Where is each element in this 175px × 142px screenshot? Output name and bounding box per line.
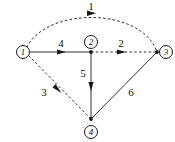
edge-label-5: 5 bbox=[77, 67, 89, 79]
node-label-1[interactable]: 1 bbox=[16, 45, 30, 59]
edge-label-2: 2 bbox=[115, 37, 127, 49]
edge-5-arrowhead bbox=[88, 82, 93, 91]
node-label-3[interactable]: 3 bbox=[159, 45, 173, 59]
node-4-dot[interactable] bbox=[89, 117, 93, 121]
edge-label-1: 1 bbox=[85, 0, 97, 12]
edge-label-3: 3 bbox=[38, 86, 50, 98]
edge-2-line bbox=[91, 49, 157, 54]
node-label-2[interactable]: 2 bbox=[84, 35, 98, 49]
edge-label-4: 4 bbox=[55, 37, 67, 49]
edge-6-line bbox=[91, 52, 157, 119]
edge-6-path bbox=[91, 52, 157, 119]
node-label-4[interactable]: 4 bbox=[84, 125, 98, 139]
edge-3-line bbox=[25, 52, 91, 119]
edge-4-arrowhead bbox=[57, 49, 66, 54]
graph-diagram: 1 2 3 4 1 4 2 5 3 6 bbox=[0, 0, 175, 142]
edge-label-6: 6 bbox=[125, 86, 137, 98]
node-2-dot[interactable] bbox=[89, 50, 93, 54]
edge-3-path bbox=[25, 52, 91, 119]
edge-3-arrowhead bbox=[53, 84, 62, 93]
edge-4-line bbox=[25, 49, 91, 54]
edge-5-line bbox=[88, 52, 93, 119]
edge-2-arrowhead bbox=[117, 49, 126, 54]
